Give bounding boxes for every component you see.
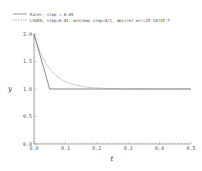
series <box>34 34 191 89</box>
x-tick-label: 0.1 <box>61 145 70 151</box>
y-axis-label: y <box>7 85 13 93</box>
x-axis-label: t <box>111 155 114 163</box>
y-tick-label: 0.0 <box>23 141 32 147</box>
series-line-euler <box>34 34 191 89</box>
legend-label-lsoda: LSODA, step=0.01, min/max step=0/1, abs/… <box>30 18 170 23</box>
x-tick-label: 0.5 <box>186 145 195 151</box>
series-line-lsoda <box>34 34 191 89</box>
legend-label-euler: Euler, step = 0.05 <box>30 12 74 17</box>
x-tick-label: 0.2 <box>92 145 101 151</box>
y-tick-label: 2.0 <box>23 31 32 37</box>
legend: Euler, step = 0.05 LSODA, step=0.01, min… <box>13 12 170 23</box>
y-tick-label: 1.0 <box>23 86 32 92</box>
axes: 0.00.10.20.30.40.50.00.51.01.52.0 <box>23 31 196 151</box>
x-tick-label: 0.3 <box>124 145 133 151</box>
chart: Euler, step = 0.05 LSODA, step=0.01, min… <box>0 0 202 171</box>
y-tick-label: 1.5 <box>23 58 32 64</box>
x-tick-label: 0.4 <box>155 145 164 151</box>
y-tick-label: 0.5 <box>23 113 32 119</box>
